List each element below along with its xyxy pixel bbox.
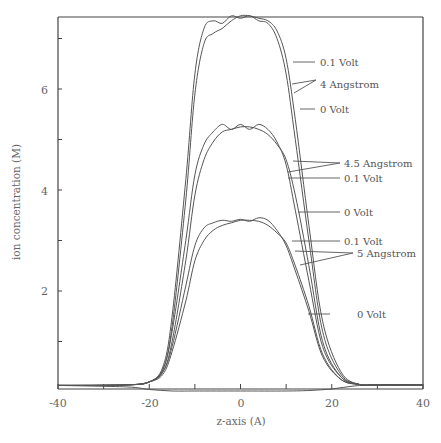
y-tick-labels: 2 4 6 — [41, 84, 48, 298]
x-tick-label: -40 — [49, 397, 67, 410]
ion-concentration-chart: -40 -20 0 20 40 2 4 6 z-axis (A) ion con… — [0, 0, 441, 443]
y-axis-title: ion concentration (M) — [10, 144, 22, 260]
x-tick-labels: -40 -20 0 20 40 — [49, 397, 430, 410]
x-axis-title: z-axis (A) — [216, 415, 265, 427]
annotation-4-angstrom: 4 Angstrom — [320, 79, 380, 90]
annotation-4a-0v: 0 Volt — [320, 104, 349, 115]
annotation-4.5a-0v: 0 Volt — [344, 207, 373, 218]
y-tick-label: 4 — [41, 185, 48, 198]
annotations: 0.1 Volt 4 Angstrom 0 Volt 0.1 Volt 4.5 … — [320, 57, 417, 320]
annotation-leaders — [288, 62, 353, 314]
y-tick-label: 6 — [41, 84, 48, 97]
annotation-4.5a-0.1v: 0.1 Volt — [344, 173, 383, 184]
annotation-5a-0.1v: 0.1 Volt — [344, 236, 383, 247]
x-tick-label: 20 — [325, 397, 339, 410]
annotation-4a-0.1v: 0.1 Volt — [320, 57, 359, 68]
annotation-5-angstrom: 5 Angstrom — [357, 248, 417, 259]
y-tick-label: 2 — [41, 285, 48, 298]
annotation-5a-0v: 0 Volt — [357, 309, 386, 320]
plot-frame — [58, 17, 423, 389]
annotation-4.5-angstrom: 4.5 Angstrom — [344, 158, 413, 169]
x-tick-label: 40 — [416, 397, 430, 410]
data-series — [58, 15, 423, 391]
series-line — [58, 16, 423, 386]
series-line — [58, 15, 423, 385]
x-tick-label: 0 — [238, 397, 245, 410]
x-tick-label: -20 — [141, 397, 159, 410]
